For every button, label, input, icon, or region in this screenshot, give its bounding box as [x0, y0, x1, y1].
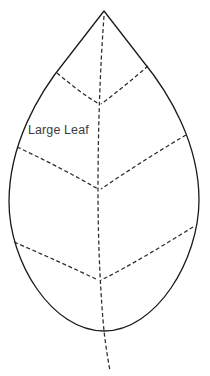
- leaf-outline-path: [9, 11, 199, 331]
- leaf-label-text: Large Leaf: [28, 123, 89, 137]
- leaf-diagram: Large Leaf: [0, 0, 210, 376]
- leaf-template-canvas: Large Leaf: [0, 0, 210, 376]
